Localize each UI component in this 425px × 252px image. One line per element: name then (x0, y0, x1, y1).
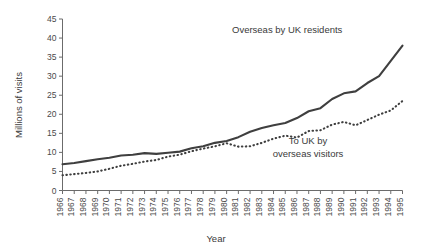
x-tick-label: 1980 (219, 197, 229, 216)
x-tick-label: 1983 (254, 197, 264, 216)
y-tick-label: 45 (47, 14, 57, 24)
y-tick-label: 15 (47, 128, 57, 138)
x-axis-ticks: 1966196719681969197019711972197319741975… (55, 191, 405, 217)
line-chart: 051015202530354045 196619671968196919701… (0, 0, 425, 252)
x-tick-label: 1971 (113, 197, 123, 216)
y-tick-label: 40 (47, 33, 57, 43)
x-tick-label: 1976 (172, 197, 182, 216)
x-tick-label: 1966 (55, 197, 65, 216)
x-tick-label: 1978 (195, 197, 205, 216)
x-tick-label: 1990 (336, 197, 346, 216)
x-tick-label: 1986 (289, 197, 299, 216)
x-tick-label: 1985 (277, 197, 287, 216)
y-tick-label: 35 (47, 52, 57, 62)
series-group (63, 46, 403, 176)
x-tick-label: 1993 (371, 197, 381, 216)
x-tick-label: 1992 (359, 197, 369, 216)
x-tick-label: 1968 (78, 197, 88, 216)
annotation-to-uk-by-overseas-visitors-line1: To UK by (289, 135, 328, 146)
x-tick-label: 1967 (66, 197, 76, 216)
x-tick-label: 1975 (160, 197, 170, 216)
x-tick-label: 1970 (101, 197, 111, 216)
x-tick-label: 1995 (395, 197, 405, 216)
y-tick-label: 10 (47, 147, 57, 157)
x-axis-title: Year (206, 233, 225, 244)
annotation-to-uk-by-overseas-visitors-line2: overseas visitors (273, 148, 344, 159)
y-tick-label: 5 (52, 166, 57, 176)
annotation-overseas-by-uk-residents: Overseas by UK residents (232, 24, 343, 35)
x-tick-label: 1979 (207, 197, 217, 216)
chart-figure: 051015202530354045 196619671968196919701… (0, 0, 425, 252)
x-tick-label: 1972 (125, 197, 135, 216)
y-tick-label: 30 (47, 71, 57, 81)
plot-axes (63, 19, 403, 191)
x-tick-label: 1973 (137, 197, 147, 216)
y-tick-label: 25 (47, 90, 57, 100)
x-tick-label: 1991 (348, 197, 358, 216)
x-tick-label: 1988 (312, 197, 322, 216)
y-axis-title: Millions of visits (13, 72, 24, 138)
x-tick-label: 1994 (383, 197, 393, 216)
x-tick-label: 1974 (148, 197, 158, 216)
series-line-overseas-by-uk-residents (63, 46, 403, 165)
x-tick-label: 1981 (230, 197, 240, 216)
x-tick-label: 1984 (266, 197, 276, 216)
y-tick-label: 20 (47, 109, 57, 119)
x-tick-label: 1982 (242, 197, 252, 216)
y-tick-label: 0 (52, 186, 57, 196)
x-tick-label: 1989 (324, 197, 334, 216)
y-axis-ticks: 051015202530354045 (47, 14, 62, 196)
x-tick-label: 1977 (183, 197, 193, 216)
x-tick-label: 1969 (90, 197, 100, 216)
x-tick-label: 1987 (301, 197, 311, 216)
